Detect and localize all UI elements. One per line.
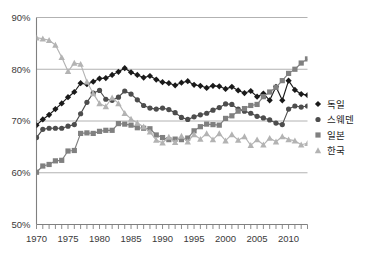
data-point-marker xyxy=(217,123,222,128)
data-point-marker xyxy=(154,132,159,137)
data-point-marker xyxy=(285,136,291,142)
data-point-marker xyxy=(279,133,285,139)
data-point-marker xyxy=(154,106,159,111)
data-point-marker xyxy=(241,90,247,96)
data-point-marker xyxy=(273,120,278,125)
data-point-marker xyxy=(305,103,310,108)
data-point-marker xyxy=(90,79,96,85)
data-point-marker xyxy=(261,94,266,99)
legend-item-독일[interactable]: 독일 xyxy=(315,99,345,110)
data-point-marker xyxy=(122,110,128,116)
data-point-marker xyxy=(141,74,147,80)
data-point-marker xyxy=(254,136,260,142)
data-point-marker xyxy=(103,97,108,102)
line-chart: 50%60%70%80%90%1970197519801985199019952… xyxy=(0,0,367,262)
data-point-marker xyxy=(153,77,159,83)
y-axis-tick-label: 50% xyxy=(11,219,31,230)
data-point-marker xyxy=(96,100,102,106)
data-point-marker xyxy=(216,83,222,89)
data-point-marker xyxy=(216,130,222,136)
data-point-marker xyxy=(185,78,191,84)
legend-item-스웨덴[interactable]: 스웨덴 xyxy=(315,114,354,125)
x-axis-tick-label: 1995 xyxy=(183,233,204,244)
data-point-marker xyxy=(40,127,45,132)
data-point-marker xyxy=(185,117,190,122)
x-axis-tick-label: 1990 xyxy=(152,233,173,244)
data-point-marker xyxy=(33,34,39,40)
x-axis-ticks: 197019751980198519901995200020052010 xyxy=(26,225,308,244)
data-point-marker xyxy=(128,123,133,128)
data-point-marker xyxy=(304,92,310,98)
legend-item-한국[interactable]: 한국 xyxy=(315,145,345,156)
data-point-marker xyxy=(235,87,241,93)
x-axis-tick-label: 1985 xyxy=(120,233,141,244)
data-point-marker xyxy=(178,133,184,139)
data-point-marker xyxy=(229,102,234,107)
data-point-marker xyxy=(203,130,209,136)
x-axis-tick-label: 2005 xyxy=(247,233,268,244)
series-line xyxy=(37,68,308,125)
x-axis-tick-label: 2010 xyxy=(278,233,299,244)
chart-screenshot: 50%60%70%80%90%1970197519801985199019952… xyxy=(0,0,367,262)
series-2 xyxy=(34,88,310,140)
data-point-marker xyxy=(241,133,247,139)
data-point-marker xyxy=(128,69,134,75)
data-point-marker xyxy=(248,111,253,116)
x-axis-tick-label: 1980 xyxy=(89,233,110,244)
data-point-marker xyxy=(172,82,178,88)
data-point-marker xyxy=(210,108,215,113)
data-point-marker xyxy=(292,103,297,108)
data-point-marker xyxy=(305,56,310,61)
data-point-marker xyxy=(178,80,184,86)
data-point-marker xyxy=(292,67,297,72)
data-point-marker xyxy=(103,75,109,81)
data-point-marker xyxy=(84,100,89,105)
data-point-marker xyxy=(84,78,90,84)
data-point-marker xyxy=(160,105,165,110)
series-3 xyxy=(34,56,310,175)
data-point-marker xyxy=(34,135,39,140)
data-point-marker xyxy=(122,65,128,71)
legend-item-일본[interactable]: 일본 xyxy=(315,130,345,141)
data-point-marker xyxy=(248,103,253,108)
x-axis-tick-label: 2000 xyxy=(215,233,236,244)
data-point-marker xyxy=(280,78,285,83)
series-line xyxy=(37,38,308,146)
data-point-marker xyxy=(59,126,64,131)
data-point-marker xyxy=(159,79,165,85)
data-point-marker xyxy=(204,111,209,116)
data-point-marker xyxy=(267,89,272,94)
data-point-marker xyxy=(166,80,172,86)
legend-label: 한국 xyxy=(327,145,345,156)
data-point-marker xyxy=(261,115,266,120)
data-point-marker xyxy=(166,107,171,112)
y-axis-tick-label: 70% xyxy=(11,115,31,126)
series-line xyxy=(37,59,308,172)
data-point-marker xyxy=(304,140,310,146)
data-point-marker xyxy=(280,122,285,127)
data-point-marker xyxy=(147,105,152,110)
data-point-marker xyxy=(47,126,52,131)
data-point-marker xyxy=(116,121,121,126)
data-point-marker xyxy=(97,129,102,134)
x-axis-tick-label: 1975 xyxy=(57,233,78,244)
legend: 독일스웨덴일본한국 xyxy=(315,99,354,157)
data-point-marker xyxy=(299,60,304,65)
data-point-marker xyxy=(47,162,52,167)
data-point-marker xyxy=(128,91,133,96)
legend-label: 독일 xyxy=(327,99,345,110)
data-point-marker xyxy=(160,135,165,140)
data-point-marker xyxy=(141,103,146,108)
data-point-marker xyxy=(34,170,39,175)
data-point-marker xyxy=(78,111,83,116)
data-point-marker xyxy=(292,87,298,93)
data-point-marker xyxy=(122,88,127,93)
data-point-marker xyxy=(222,86,228,92)
data-point-marker xyxy=(53,158,58,163)
data-point-marker xyxy=(315,101,321,107)
data-point-marker xyxy=(135,125,140,130)
x-axis-tick-label: 1970 xyxy=(26,233,47,244)
data-point-marker xyxy=(173,110,178,115)
data-point-marker xyxy=(134,72,140,78)
data-point-marker xyxy=(103,128,108,133)
